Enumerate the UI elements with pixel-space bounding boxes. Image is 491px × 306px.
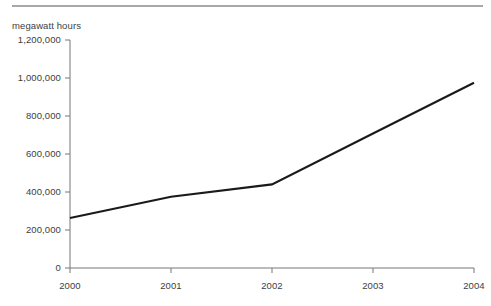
chart-figure: megawatt hours 0200,000400,000600,000800… [0, 0, 491, 306]
y-axis-tick-label: 800,000 [26, 110, 61, 121]
x-axis-tick-label: 2004 [444, 280, 491, 291]
chart-axes [65, 40, 474, 273]
y-axis-tick-label: 0 [56, 262, 61, 273]
x-axis-ticks [70, 268, 474, 273]
y-axis-tick-label: 1,000,000 [18, 72, 61, 83]
data-series-line [70, 83, 474, 218]
x-axis-tick-label: 2000 [40, 280, 100, 291]
y-axis-tick-label: 1,200,000 [18, 34, 61, 45]
y-axis-tick-label: 400,000 [26, 186, 61, 197]
x-axis-tick-label: 2001 [141, 280, 201, 291]
y-axis-tick-label: 200,000 [26, 224, 61, 235]
y-axis-ticks [65, 40, 70, 268]
line-chart-plot [0, 0, 491, 306]
y-axis-tick-label: 600,000 [26, 148, 61, 159]
x-axis-tick-label: 2002 [242, 280, 302, 291]
x-axis-tick-label: 2003 [343, 280, 403, 291]
